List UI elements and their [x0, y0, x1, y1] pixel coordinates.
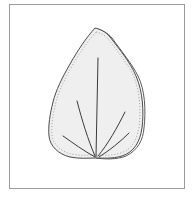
leaf-illustration	[0, 0, 196, 198]
leaf-blade	[49, 28, 143, 158]
